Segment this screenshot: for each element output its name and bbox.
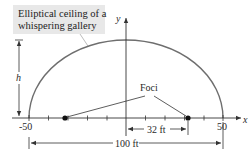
width-label: 100 ft [115,138,139,149]
foci-label: Foci [140,82,158,93]
callout-line-1: Elliptical ceiling of a [18,8,107,19]
height-label: h [16,72,21,83]
x-min-label: -50 [19,121,32,132]
whispering-gallery-diagram: Elliptical ceiling of a whispering galle… [0,0,251,153]
focus-point-left [62,115,67,120]
x-max-label: 50 [217,121,227,132]
callout-line-2: whispering gallery [18,20,97,31]
y-axis-label: y [115,13,121,24]
callout-label: Elliptical ceiling of a whispering galle… [13,5,107,46]
focus-distance-dimension: 32 ft [128,121,188,135]
focus-distance-label: 32 ft [147,124,166,135]
focus-point-right [185,115,190,120]
foci-annotation: Foci [67,82,186,117]
height-dimension: h [14,40,24,116]
callout-pointer [80,34,88,46]
x-axis-label: x [242,114,248,125]
